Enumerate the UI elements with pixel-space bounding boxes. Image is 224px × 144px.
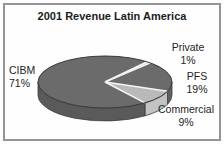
slice-label-private: Private 1% xyxy=(152,41,224,67)
slice-pct: 1% xyxy=(152,54,224,67)
slice-pct: 71% xyxy=(9,77,35,90)
chart-canvas: 2001 Revenue Latin America CIBM 71% Priv… xyxy=(0,0,224,144)
slice-label-cibm: CIBM 71% xyxy=(9,64,35,90)
slice-label-commercial: Commercial 9% xyxy=(150,103,222,129)
slice-name: PFS xyxy=(168,70,224,83)
slice-name: Commercial xyxy=(150,103,222,116)
slice-pct: 19% xyxy=(168,83,224,96)
slice-name: CIBM xyxy=(9,64,35,77)
slice-name: Private xyxy=(152,41,224,54)
slice-label-pfs: PFS 19% xyxy=(168,70,224,96)
slice-pct: 9% xyxy=(150,116,222,129)
chart-title: 2001 Revenue Latin America xyxy=(0,10,224,22)
